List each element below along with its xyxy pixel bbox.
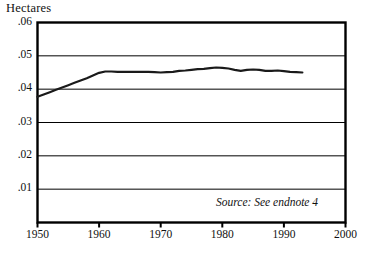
x-tick-label: 2000 [323,228,369,240]
y-tick-label: .06 [2,15,32,27]
y-tick-label: .03 [2,115,32,127]
chart-figure: Hectares .01.02.03.04.05.06 195019601970… [0,0,369,261]
gridlines [38,56,346,189]
y-tick-label: .02 [2,148,32,160]
plot-area [0,0,369,261]
y-tick-label: .04 [2,81,32,93]
x-tick-label: 1980 [199,228,245,240]
y-tick-label: .01 [2,181,32,193]
data-series-line [38,68,303,97]
x-tick-label: 1950 [15,228,61,240]
x-tick-label: 1990 [261,228,307,240]
x-tick-label: 1970 [138,228,184,240]
x-tick-label: 1960 [76,228,122,240]
y-tick-label: .05 [2,48,32,60]
source-note: Source: See endnote 4 [216,196,318,208]
